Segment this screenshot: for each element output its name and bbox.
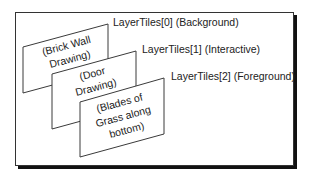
layer-2-label: LayerTiles[2] (Foreground) — [171, 70, 295, 82]
layer-1-label: LayerTiles[1] (Interactive) — [142, 43, 260, 55]
layer-0-label: LayerTiles[0] (Background) — [113, 16, 239, 28]
